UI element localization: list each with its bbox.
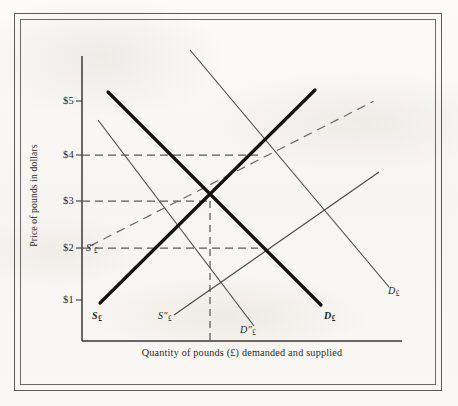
figure-page: $5 $4 $3 $2 $1 Price of pounds in dollar… xyxy=(0,0,458,406)
y-tick-label-3: $3 xyxy=(48,195,74,206)
curve-d-double-prime xyxy=(98,120,254,326)
y-tick-label-1: $1 xyxy=(48,294,74,305)
curve-label-s-prime: S′£ xyxy=(86,242,98,255)
curve-label-s-subscript: £ xyxy=(98,315,102,323)
curve-label-d-double-prime-subscript: £ xyxy=(252,329,256,337)
curve-s-bold xyxy=(100,90,315,303)
y-tick-label-5: $5 xyxy=(48,95,74,106)
curve-label-s-double-prime-text: S″ xyxy=(158,310,168,321)
curve-label-s: S£ xyxy=(92,310,102,323)
curve-s-double-prime xyxy=(174,172,379,315)
curve-label-d-double-prime-text: D″ xyxy=(240,324,252,335)
curve-label-s-double-prime-subscript: £ xyxy=(168,315,172,323)
y-axis-title: Price of pounds in dollars xyxy=(28,121,39,271)
curve-label-d-prime-right: D£ xyxy=(388,285,399,298)
curve-label-d-text: D xyxy=(324,310,332,321)
curve-label-d-double-prime: D″£ xyxy=(240,324,256,337)
curve-label-s-double-prime: S″£ xyxy=(158,310,172,323)
curve-label-d-prime-right-subscript: £ xyxy=(396,290,400,298)
curve-label-d-prime-right-text: D xyxy=(388,285,396,296)
x-axis-title: Quantity of pounds (£) demanded and supp… xyxy=(82,347,402,358)
y-tick-label-2: $2 xyxy=(48,242,74,253)
curve-d-prime-right xyxy=(190,50,389,287)
y-tick-label-4: $4 xyxy=(48,149,74,160)
curve-label-s-prime-text: S′ xyxy=(86,242,94,253)
curve-label-d: D£ xyxy=(324,310,335,323)
curve-label-s-prime-subscript: £ xyxy=(94,247,98,255)
curve-label-d-subscript: £ xyxy=(332,315,336,323)
curve-label-s-text: S xyxy=(92,310,98,321)
